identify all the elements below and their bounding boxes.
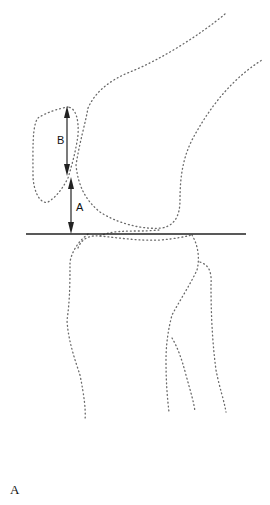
knee-diagram: B A — [0, 0, 270, 505]
figure-caption: A — [10, 482, 19, 498]
fibula-outline-inner — [172, 338, 195, 412]
fibula-outline-outer — [200, 262, 226, 412]
tibia-posterior-outline — [67, 234, 88, 420]
measure-a-arrowhead-bottom — [68, 222, 74, 234]
femur-anterior-outline — [76, 14, 262, 228]
measure-a-arrowhead-top — [68, 177, 74, 189]
measure-a-label: A — [76, 201, 84, 213]
femoral-condyle-bottom — [100, 230, 160, 236]
measure-b-label: B — [57, 134, 64, 146]
tibia-plateau-outline — [78, 235, 192, 248]
tibia-anterior-outline — [166, 235, 198, 412]
